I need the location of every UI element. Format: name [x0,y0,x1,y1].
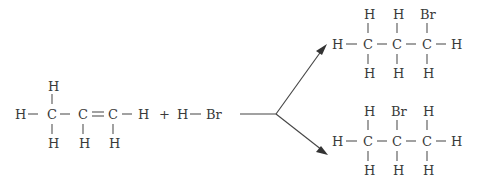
plus-sign: + [159,107,170,122]
atom-h: H [393,163,404,178]
atom-h: H [423,163,434,178]
atom-h: H [393,66,404,81]
atom-c: C [78,107,88,122]
atom-h: H [423,104,434,119]
atom-c: C [422,37,432,52]
atom-c: C [363,134,373,149]
atom-h: H [79,136,90,151]
atom-h: H [138,107,149,122]
atom-c: C [363,37,373,52]
atom-h: H [177,107,188,122]
product-1-structure: H H Br H C C C H H H H [332,7,462,81]
atom-h: H [48,136,59,151]
atom-br: Br [391,104,408,119]
arrowhead-up-icon [316,44,327,55]
atom-h: H [423,66,434,81]
propene-structure: H H C C C H H H H [15,79,149,151]
atom-h: H [332,37,343,52]
atom-h: H [364,66,375,81]
branching-reaction-arrow [240,44,328,155]
arrow-branch-up [276,50,322,114]
atom-h: H [364,104,375,119]
atom-h: H [15,107,26,122]
atom-h: H [332,134,343,149]
product-2-structure: H Br H H C C C H H H H [332,104,462,178]
atom-h: H [48,79,59,94]
atom-h: H [364,163,375,178]
reaction-diagram: H H C C C H H H H + H Br H H Br [0,0,491,192]
hbr-structure: H Br [177,107,223,122]
atom-br: Br [420,7,437,22]
atom-c: C [392,37,402,52]
atom-h: H [393,7,404,22]
atom-c: C [422,134,432,149]
atom-h: H [451,37,462,52]
atom-c: C [108,107,118,122]
atom-br: Br [206,107,223,122]
atom-h: H [109,136,120,151]
atom-c: C [47,107,57,122]
atom-c: C [392,134,402,149]
atom-h: H [364,7,375,22]
atom-h: H [451,134,462,149]
arrow-branch-down [276,114,322,150]
